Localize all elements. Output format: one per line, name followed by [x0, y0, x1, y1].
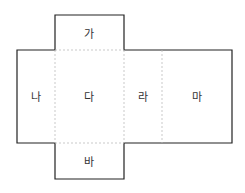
- face-label-ra: 라: [138, 88, 148, 104]
- face-label-ba: 바: [84, 153, 94, 169]
- face-label-na: 나: [31, 88, 41, 104]
- face-label-da: 다: [84, 88, 94, 104]
- face-label-ma: 마: [192, 88, 202, 104]
- face-label-ga: 가: [84, 25, 94, 41]
